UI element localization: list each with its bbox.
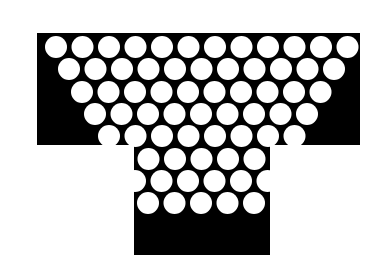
top-bar: [37, 33, 360, 145]
perforated-t-figure: [0, 0, 372, 255]
stem: [134, 145, 270, 255]
